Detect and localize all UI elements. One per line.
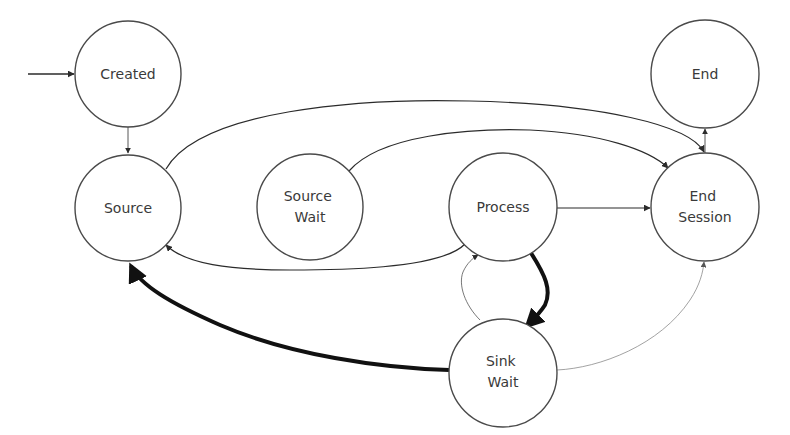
- state-diagram: Created Source Source Wait Process E: [0, 0, 790, 435]
- state-end-session-circle: [651, 153, 759, 261]
- state-end-label: End: [692, 66, 719, 82]
- state-sink-wait: Sink Wait: [449, 319, 557, 427]
- state-source-wait: Source Wait: [257, 154, 363, 260]
- state-created-label: Created: [100, 66, 155, 82]
- state-process-label: Process: [476, 199, 529, 215]
- transition-sink-wait-to-source: [131, 266, 449, 370]
- transition-sink-wait-to-end-session: [557, 262, 704, 370]
- state-source-wait-circle: [257, 154, 363, 260]
- state-sink-wait-circle: [449, 319, 557, 427]
- state-process: Process: [449, 153, 557, 261]
- state-end: End: [651, 20, 759, 128]
- state-end-session: End Session: [651, 153, 759, 261]
- transition-sink-wait-to-process: [461, 255, 480, 320]
- states: Created Source Source Wait Process E: [75, 20, 759, 427]
- state-created: Created: [75, 21, 181, 127]
- state-source-label: Source: [104, 200, 152, 216]
- state-source: Source: [75, 155, 181, 261]
- transition-process-to-sink-wait: [527, 253, 548, 326]
